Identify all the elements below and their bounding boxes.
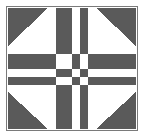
bar-right-low-dark — [96, 77, 136, 85]
checker-cell-r0-c1 — [56, 46, 72, 54]
checker-cell-r3-c3 — [80, 77, 88, 85]
checker-cell-r3-c4 — [88, 77, 96, 85]
checker-cell-r2-c2 — [72, 69, 80, 77]
bar-bottom-right-white — [72, 92, 80, 129]
checker-cell-r4-c1 — [56, 85, 72, 92]
checker-cell-r0-c3 — [80, 46, 88, 54]
bar-left-mid-dark — [8, 54, 48, 69]
bar-bottom-left-white — [48, 92, 56, 129]
bar-left-mid-white — [8, 69, 48, 77]
checker-cell-r4-c0 — [48, 85, 56, 92]
checker-cell-r0-c2 — [72, 46, 80, 54]
checker-cell-r2-c1 — [56, 69, 72, 77]
bar-right-mid-dark — [96, 54, 136, 69]
checker-cell-r1-c2 — [72, 54, 80, 69]
bar-left-low-white — [8, 85, 48, 92]
bar-bottom-center-dark — [56, 92, 72, 129]
checker-cell-r2-c0 — [48, 69, 56, 77]
bar-top-far-dark — [80, 8, 88, 46]
bar-top-far-white — [88, 8, 96, 46]
center-checkerboard-group — [48, 46, 96, 92]
checker-cell-r3-c1 — [56, 77, 72, 85]
bar-right-low-white — [96, 85, 136, 92]
checker-cell-r2-c4 — [88, 69, 96, 77]
bar-top-right-white — [72, 8, 80, 46]
bar-left-top-white — [8, 46, 48, 54]
checker-cell-r4-c4 — [88, 85, 96, 92]
bar-bottom-far-dark — [80, 92, 88, 129]
bar-top-center-dark — [56, 8, 72, 46]
bar-top-left-white — [48, 8, 56, 46]
checker-cell-r0-c0 — [48, 46, 56, 54]
bar-left-low-dark — [8, 77, 48, 85]
bar-bottom-far-white — [88, 92, 96, 129]
bar-right-mid-white — [96, 69, 136, 77]
quilt-block-figure — [0, 0, 146, 138]
checker-cell-r3-c0 — [48, 77, 56, 85]
checker-cell-r3-c2 — [72, 77, 80, 85]
bar-right-top-white — [96, 46, 136, 54]
checker-cell-r4-c3 — [80, 85, 88, 92]
checker-cell-r2-c3 — [80, 69, 88, 77]
quilt-block-svg — [0, 0, 146, 138]
checker-cell-r1-c3 — [80, 54, 88, 69]
checker-cell-r0-c4 — [88, 46, 96, 54]
checker-cell-r1-c1 — [56, 54, 72, 69]
checker-cell-r1-c4 — [88, 54, 96, 69]
checker-cell-r1-c0 — [48, 54, 56, 69]
checker-cell-r4-c2 — [72, 85, 80, 92]
